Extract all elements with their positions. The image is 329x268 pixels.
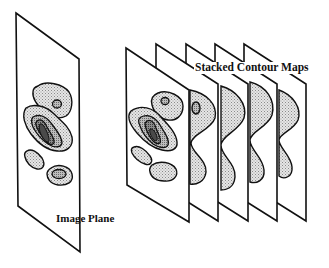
- contour-island-2: [192, 102, 200, 114]
- upper-peak: [53, 100, 62, 108]
- stacked-contour-maps-label: Stacked Contour Maps: [194, 62, 310, 74]
- contour-diagram: [0, 0, 329, 268]
- lower-peak: [52, 170, 66, 179]
- image-plane-label: Image Plane: [55, 213, 115, 224]
